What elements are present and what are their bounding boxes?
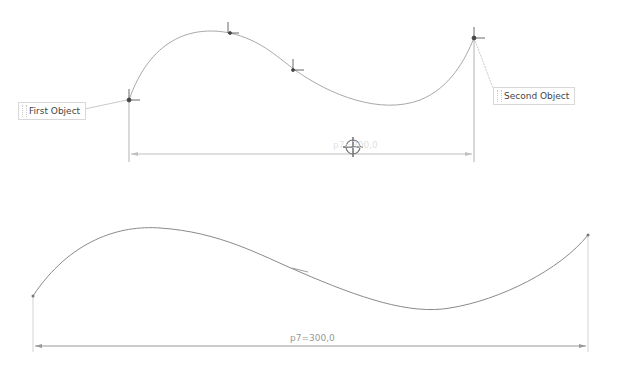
first-object-label: First Object [18,102,86,120]
sketch-canvas[interactable] [0,0,620,372]
first-object-leader [80,100,127,110]
second-object-leader [474,38,493,88]
second-object-label: Second Object [493,87,575,105]
bottom-spline-curve[interactable] [33,228,588,310]
top-dimension-value[interactable]: p7=300,0 [333,140,378,150]
handle-icon[interactable] [127,22,485,102]
bottom-dimension-value[interactable]: p7=300,0 [290,333,335,343]
top-spline-curve[interactable] [129,31,474,105]
